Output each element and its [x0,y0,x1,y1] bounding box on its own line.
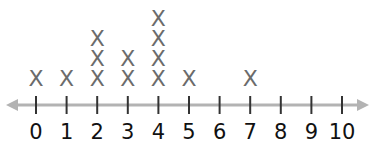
x-mark: X [90,26,105,51]
tick-label: 10 [329,120,356,144]
tick-label: 7 [244,120,257,144]
tick-label: 3 [121,120,134,144]
x-mark: X [120,46,135,71]
tick-label: 2 [91,120,104,144]
tick-label: 5 [182,120,195,144]
x-marks: XXXXXXXXXXXXX [28,6,257,91]
tick-label: 8 [274,120,287,144]
x-mark: X [243,66,258,91]
right-arrow-icon [357,99,369,111]
tick-labels: 012345678910 [29,120,355,144]
x-mark: X [181,66,196,91]
number-line [6,99,369,111]
x-mark: X [151,6,166,31]
left-arrow-icon [6,99,18,111]
line-plot: 012345678910 XXXXXXXXXXXXX [0,0,375,149]
x-mark: X [28,66,43,91]
tick-label: 0 [29,120,42,144]
tick-label: 1 [60,120,73,144]
x-mark: X [59,66,74,91]
tick-label: 6 [213,120,226,144]
tick-label: 4 [152,120,165,144]
tick-label: 9 [305,120,318,144]
